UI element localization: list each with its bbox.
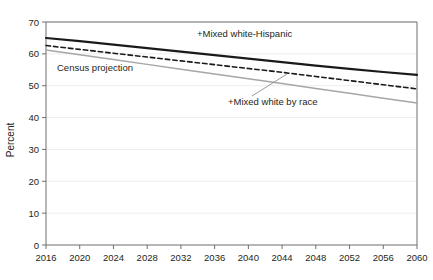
series-annotation-label: +Mixed white by race [228, 96, 318, 107]
x-tick-label: 2044 [272, 252, 293, 263]
y-tick-label: 50 [28, 80, 39, 91]
y-tick-label: 40 [28, 112, 39, 123]
series-annotation-label: Census projection [57, 62, 133, 73]
y-tick-label: 0 [34, 240, 39, 251]
y-tick-label: 10 [28, 208, 39, 219]
x-tick-label: 2032 [170, 252, 191, 263]
y-tick-label: 20 [28, 176, 39, 187]
y-tick-label: 60 [28, 48, 39, 59]
x-tick-label: 2024 [103, 252, 124, 263]
line-chart: 010203040506070 201620202024202820322036… [0, 0, 433, 280]
x-tick-label: 2036 [204, 252, 225, 263]
x-tick-label: 2020 [69, 252, 90, 263]
y-tick-label: 70 [28, 17, 39, 28]
y-axis-label: Percent [5, 123, 16, 158]
x-tick-label: 2048 [305, 252, 326, 263]
chart-background [0, 0, 433, 280]
chart-figure: 010203040506070 201620202024202820322036… [0, 0, 433, 280]
x-tick-label: 2040 [238, 252, 259, 263]
x-tick-label: 2016 [35, 252, 56, 263]
x-tick-label: 2052 [339, 252, 360, 263]
x-tick-label: 2056 [373, 252, 394, 263]
x-tick-label: 2060 [406, 252, 427, 263]
x-tick-label: 2028 [137, 252, 158, 263]
y-tick-label: 30 [28, 144, 39, 155]
series-annotation-label: +Mixed white-Hispanic [197, 28, 293, 39]
